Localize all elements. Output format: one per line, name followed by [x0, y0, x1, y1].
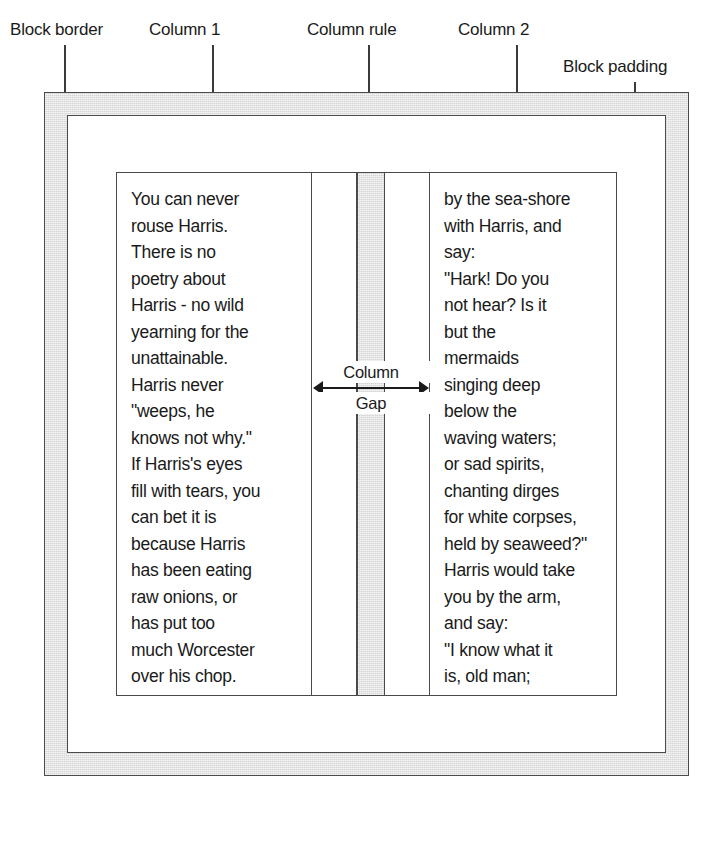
callout-label-block-padding: Block padding [563, 57, 667, 77]
block-padding-box: You can never rouse Harris. There is no … [67, 115, 666, 753]
callout-label-column-1: Column 1 [149, 20, 220, 40]
column-1-line: poetry about [131, 266, 311, 293]
column-1-line: yearning for the [131, 319, 311, 346]
column-2-line: chanting dirges [444, 478, 607, 505]
column-2-line: mermaids [444, 345, 607, 372]
column-rule [357, 173, 385, 695]
column-1-text: You can never rouse Harris. There is no … [117, 173, 312, 695]
column-1-line: You can never [131, 186, 311, 213]
column-1-line: There is no [131, 239, 311, 266]
callout-label-block-border: Block border [10, 20, 103, 40]
column-2-line: you've got a chill. [444, 690, 607, 696]
column-1-line: knows not why." [131, 425, 311, 452]
column-gap-left-half [312, 173, 357, 695]
column-1-line: has put too [131, 610, 311, 637]
column-2-line: "Hark! Do you [444, 266, 607, 293]
column-2-line: not hear? Is it [444, 292, 607, 319]
column-2-line: by the sea-shore [444, 186, 607, 213]
column-2-line: for white corpses, [444, 504, 607, 531]
column-gap-label-bottom: Gap [312, 392, 430, 414]
column-2-line: held by seaweed?" [444, 531, 607, 558]
callout-label-column-2: Column 2 [458, 20, 529, 40]
column-2-line: waving waters; [444, 425, 607, 452]
column-2-line: singing deep [444, 372, 607, 399]
measure-line [319, 387, 423, 389]
column-gap-label-top: Column [312, 361, 430, 383]
column-1-line: "weeps, he [131, 398, 311, 425]
callout-label-column-rule: Column rule [307, 20, 396, 40]
column-gap-right-half [385, 173, 430, 695]
column-2-line: Harris would take [444, 557, 607, 584]
column-1-line: raw onions, or [131, 584, 311, 611]
column-2-line: "I know what it [444, 637, 607, 664]
column-1-line: If you were to [131, 690, 311, 696]
column-2-line: or sad spirits, [444, 451, 607, 478]
column-2-line: you by the arm, [444, 584, 607, 611]
block-border-box: You can never rouse Harris. There is no … [44, 92, 689, 776]
multicolumn-container: You can never rouse Harris. There is no … [116, 172, 617, 696]
column-1-line: because Harris [131, 531, 311, 558]
column-2-line: and say: [444, 610, 607, 637]
column-2-line: say: [444, 239, 607, 266]
column-2-line: below the [444, 398, 607, 425]
column-1-line: unattainable. [131, 345, 311, 372]
column-1-line: If Harris's eyes [131, 451, 311, 478]
column-1-line: rouse Harris. [131, 213, 311, 240]
column-2-line: is, old man; [444, 663, 607, 690]
column-2-line: with Harris, and [444, 213, 607, 240]
column-1-line: Harris - no wild [131, 292, 311, 319]
column-1-line: over his chop. [131, 663, 311, 690]
column-1-line: can bet it is [131, 504, 311, 531]
column-2-text: by the sea-shore with Harris, and say: "… [430, 173, 607, 695]
column-1-line: fill with tears, you [131, 478, 311, 505]
column-1-line: has been eating [131, 557, 311, 584]
column-2-line: but the [444, 319, 607, 346]
column-1-line: Harris never [131, 372, 311, 399]
column-1-line: much Worcester [131, 637, 311, 664]
column-gap-measure: Column Gap [312, 356, 430, 420]
